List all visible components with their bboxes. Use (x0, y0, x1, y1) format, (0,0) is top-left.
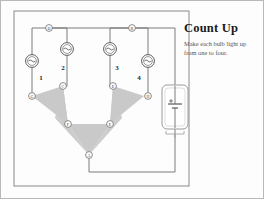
lamp-1 (26, 55, 39, 68)
node-label-H: H (146, 94, 149, 99)
bulb-number-1: 1 (39, 74, 43, 82)
wire-d-right (49, 28, 67, 86)
node-label-A: A (87, 153, 90, 158)
bulb-number-4: 4 (137, 74, 141, 82)
node-B: B (129, 25, 136, 32)
lamps (26, 43, 155, 68)
node-C: C (60, 83, 67, 90)
wedge-shapes (32, 86, 144, 155)
node-label-C: C (62, 84, 65, 89)
node-label-E2: E (109, 122, 112, 127)
page-title: Count Up (184, 22, 256, 36)
node-A: A (86, 152, 93, 159)
bulb-number-2: 2 (61, 64, 65, 72)
bulb-numbers: 1 2 3 4 (39, 64, 141, 82)
bulb-number-3: 3 (115, 64, 119, 72)
node-G: G (29, 93, 36, 100)
node-E: E (110, 83, 117, 90)
node-E2: E (107, 121, 114, 128)
node-D: D (46, 25, 53, 32)
node-label-D: D (47, 26, 50, 31)
node-H: H (145, 93, 152, 100)
puzzle-card: D B C E G H F (0, 0, 264, 199)
lamp-2 (61, 43, 74, 56)
node-label-G: G (30, 94, 33, 99)
node-label-E: E (112, 84, 115, 89)
lamp-3 (104, 43, 117, 56)
wedge-center (68, 124, 110, 155)
node-F: F (65, 121, 72, 128)
node-label-B: B (131, 26, 134, 31)
page-subtitle: Make each bulb light up from one to four… (184, 39, 256, 58)
title-block: Count Up Make each bulb light up from on… (184, 22, 256, 58)
lamp-4 (142, 55, 155, 68)
wire-b-left (110, 28, 132, 86)
